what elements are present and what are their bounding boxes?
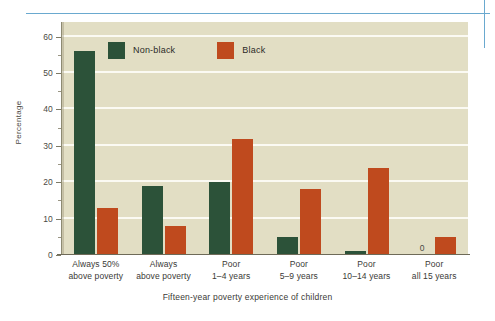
x-category-label-4: Poor10–14 years — [328, 259, 406, 282]
bar-chart-figure: 0 0102030405060 Percentage Non-black Bla… — [0, 0, 495, 321]
x-category-label-5: Poorall 15 years — [395, 259, 473, 282]
bar-nonblack-0 — [74, 51, 95, 255]
x-category-label-1: Alwaysabove poverty — [125, 259, 203, 282]
y-tick-mark-20 — [56, 182, 61, 183]
x-category-label-1-line-1: above poverty — [125, 271, 203, 283]
x-category-label-5-line-1: all 15 years — [395, 271, 473, 283]
x-category-label-0: Always 50%above poverty — [57, 259, 135, 282]
bar-black-4 — [368, 168, 389, 255]
y-tick-label-50: 50 — [27, 69, 53, 78]
gridline-50 — [62, 71, 468, 73]
x-category-label-3-line-0: Poor — [260, 259, 338, 271]
x-category-label-2: Poor1–4 years — [192, 259, 270, 282]
y-tick-mark-60 — [56, 37, 61, 38]
x-category-label-2-line-0: Poor — [192, 259, 270, 271]
bar-black-5 — [435, 237, 456, 255]
x-category-label-2-line-1: 1–4 years — [192, 271, 270, 283]
y-tick-label-0: 0 — [27, 251, 53, 260]
y-tick-label-60: 60 — [27, 33, 53, 42]
y-tick-mark-10 — [56, 219, 61, 220]
x-category-label-4-line-1: 10–14 years — [328, 271, 406, 283]
x-axis-line — [57, 254, 470, 255]
legend: Non-black Black — [108, 42, 265, 59]
legend-entry-black: Black — [217, 42, 265, 59]
x-category-label-0-line-1: above poverty — [57, 271, 135, 283]
y-axis-line — [61, 22, 62, 255]
x-category-label-4-line-0: Poor — [328, 259, 406, 271]
legend-swatch-non-black — [108, 42, 125, 59]
bar-black-1 — [165, 226, 186, 255]
y-minor-tick-5 — [58, 237, 61, 238]
gridline-10 — [62, 217, 468, 219]
x-category-label-3-line-1: 5–9 years — [260, 271, 338, 283]
x-axis-title: Fifteen-year poverty experience of child… — [0, 293, 495, 302]
y-tick-mark-50 — [56, 73, 61, 74]
y-minor-tick-55 — [58, 55, 61, 56]
bar-black-2 — [232, 139, 253, 256]
legend-swatch-black — [217, 42, 234, 59]
y-minor-tick-15 — [58, 200, 61, 201]
y-tick-mark-30 — [56, 146, 61, 147]
x-category-label-5-line-0: Poor — [395, 259, 473, 271]
legend-label-black: Black — [242, 46, 265, 55]
gridline-20 — [62, 180, 468, 182]
y-minor-tick-25 — [58, 164, 61, 165]
y-minor-tick-35 — [58, 128, 61, 129]
x-category-label-3: Poor5–9 years — [260, 259, 338, 282]
bar-nonblack-2 — [209, 182, 230, 255]
bar-black-0 — [97, 208, 118, 255]
bar-black-3 — [300, 189, 321, 255]
y-tick-label-10: 10 — [27, 215, 53, 224]
bar-nonblack-1 — [142, 186, 163, 255]
x-category-label-0-line-0: Always 50% — [57, 259, 135, 271]
y-tick-label-20: 20 — [27, 178, 53, 187]
y-tick-label-30: 30 — [27, 142, 53, 151]
y-tick-mark-40 — [56, 109, 61, 110]
gridline-40 — [62, 107, 468, 109]
y-tick-label-40: 40 — [27, 105, 53, 114]
y-tick-mark-0 — [56, 255, 61, 256]
gridline-30 — [62, 144, 468, 146]
y-minor-tick-45 — [58, 91, 61, 92]
y-axis-title: Percentage — [14, 88, 23, 158]
data-label-zero-0: 0 — [420, 244, 425, 253]
gridline-60 — [62, 35, 468, 37]
legend-label-non-black: Non-black — [133, 46, 175, 55]
x-category-label-1-line-0: Always — [125, 259, 203, 271]
legend-entry-non-black: Non-black — [108, 42, 175, 59]
bar-nonblack-3 — [277, 237, 298, 255]
